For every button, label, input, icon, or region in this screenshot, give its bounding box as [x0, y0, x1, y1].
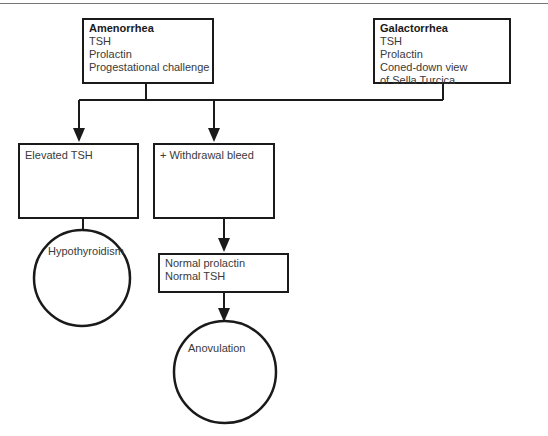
galactorrhea-test-tsh: TSH	[380, 35, 504, 48]
withdrawal-bleed-box: + Withdrawal bleed	[153, 143, 275, 219]
amenorrhea-test-progestational: Progestational challenge	[89, 61, 207, 74]
elevated-tsh-label: Elevated TSH	[25, 149, 132, 162]
amenorrhea-test-prolactin: Prolactin	[89, 48, 207, 61]
galactorrhea-test-coned-view: Coned-down view	[380, 61, 504, 74]
withdrawal-bleed-label: + Withdrawal bleed	[160, 149, 268, 162]
amenorrhea-box: Amenorrhea TSH Prolactin Progestational …	[82, 18, 214, 84]
galactorrhea-title: Galactorrhea	[380, 22, 504, 35]
normal-results-box: Normal prolactin Normal TSH	[158, 253, 289, 293]
normal-tsh-label: Normal TSH	[165, 270, 282, 283]
galactorrhea-box: Galactorrhea TSH Prolactin Coned-down vi…	[373, 18, 511, 84]
hypothyroidism-label: Hypothyroidism	[48, 245, 124, 257]
anovulation-label: Anovulation	[188, 342, 246, 354]
elevated-tsh-box: Elevated TSH	[18, 143, 139, 219]
galactorrhea-test-sella: of Sella Turcica	[380, 74, 504, 87]
galactorrhea-test-prolactin: Prolactin	[380, 48, 504, 61]
amenorrhea-test-tsh: TSH	[89, 35, 207, 48]
amenorrhea-title: Amenorrhea	[89, 22, 207, 35]
flowchart-canvas: Amenorrhea TSH Prolactin Progestational …	[0, 0, 548, 436]
normal-prolactin-label: Normal prolactin	[165, 257, 282, 270]
